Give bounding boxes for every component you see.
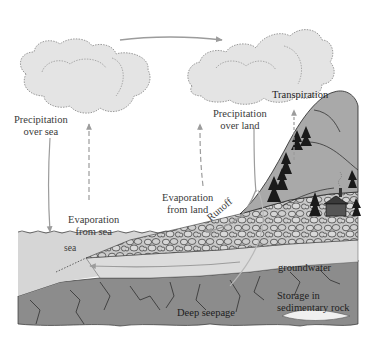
label-line: Evaporation [162,192,213,204]
label-precipitation-over-land: Precipitation over land [213,108,267,131]
precipitation-over-land-arrow [254,128,256,192]
label-evaporation-from-land: Evaporation from land [162,192,213,215]
label-line: from sea [68,226,119,238]
label-sea: sea [64,243,76,255]
label-line: sedimentary rock [277,302,350,314]
label-deep-seepage: Deep seepage [177,307,235,319]
cloud-transfer-arrow [120,37,222,40]
evaporation-from-land-arrow [200,124,203,186]
label-line: over land [213,120,267,132]
label-line: Precipitation [213,108,267,120]
label-evaporation-from-sea: Evaporation from sea [68,214,119,237]
label-line: over sea [14,126,68,138]
cloud-left [20,39,150,113]
label-line: Evaporation [68,214,119,226]
label-line: Storage in [277,290,350,302]
label-line: Precipitation [14,114,68,126]
label-groundwater: groundwater [278,262,331,274]
label-transpiration: Transpiration [272,89,328,101]
precipitation-over-sea-arrow [49,138,51,232]
label-storage-sedimentary-rock: Storage in sedimentary rock [277,290,350,313]
label-precipitation-over-sea: Precipitation over sea [14,114,68,137]
